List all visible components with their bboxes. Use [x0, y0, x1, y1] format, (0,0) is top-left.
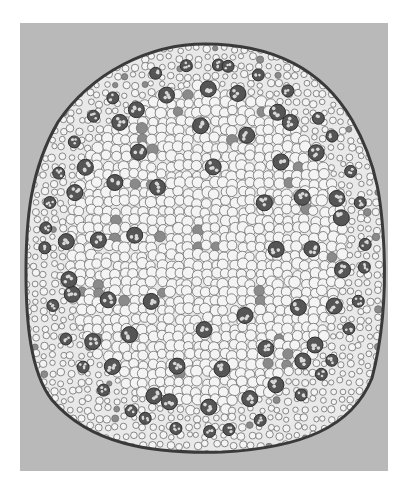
stem-cross-section: [0, 0, 410, 491]
stem-body: [22, 35, 392, 460]
